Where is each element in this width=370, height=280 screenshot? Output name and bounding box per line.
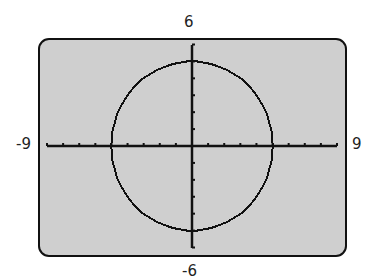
calculator-screen [0, 0, 370, 272]
